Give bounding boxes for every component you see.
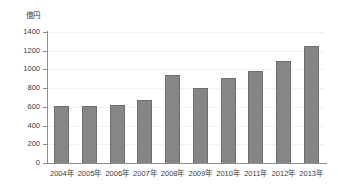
- bar-slot: [103, 32, 131, 163]
- bar-slot: [76, 32, 104, 163]
- bar-chart: 億円 1400 1200 1000 800 600: [0, 0, 338, 191]
- y-axis-tick-label: 1000: [23, 64, 40, 73]
- bar: [82, 106, 97, 163]
- y-axis-unit-label: 億円: [26, 11, 40, 20]
- y-axis-tick-label: 0: [36, 158, 40, 167]
- bar-series: [48, 32, 325, 163]
- x-axis-line: [47, 163, 327, 164]
- y-axis-tick-label: 1400: [23, 27, 40, 36]
- x-axis-labels: 2004年 2005年 2006年 2007年 2008年 2009年 2010…: [48, 169, 325, 179]
- x-axis-tick-label: 2009年: [187, 169, 215, 179]
- x-axis-tick-label: 2010年: [214, 169, 242, 179]
- tick-mark: [43, 163, 48, 164]
- bar-slot: [187, 32, 215, 163]
- bar-slot: [214, 32, 242, 163]
- y-axis-tick-label: 400: [27, 121, 40, 130]
- x-axis-tick-label: 2007年: [131, 169, 159, 179]
- bar: [304, 46, 319, 163]
- bar: [248, 71, 263, 163]
- bar: [137, 100, 152, 163]
- x-axis-tick-label: 2011年: [242, 169, 270, 179]
- bar-slot: [270, 32, 298, 163]
- y-axis-tick-label: 200: [27, 139, 40, 148]
- bar-slot: [297, 32, 325, 163]
- y-axis-tick-label: 800: [27, 83, 40, 92]
- x-axis-tick-label: 2013年: [297, 169, 325, 179]
- x-axis-tick-label: 2005年: [76, 169, 104, 179]
- bar: [193, 88, 208, 163]
- bar: [165, 75, 180, 163]
- bar-slot: [131, 32, 159, 163]
- bar: [54, 106, 69, 163]
- bar: [221, 78, 236, 163]
- bar-slot: [159, 32, 187, 163]
- bar: [110, 105, 125, 163]
- x-axis-tick-label: 2012年: [270, 169, 298, 179]
- bar: [276, 61, 291, 163]
- bar-slot: [242, 32, 270, 163]
- y-axis-tick-label: 600: [27, 102, 40, 111]
- y-axis-tick-label: 1200: [23, 46, 40, 55]
- x-axis-tick-label: 2006年: [103, 169, 131, 179]
- x-axis-tick-label: 2008年: [159, 169, 187, 179]
- x-axis-tick-label: 2004年: [48, 169, 76, 179]
- bar-slot: [48, 32, 76, 163]
